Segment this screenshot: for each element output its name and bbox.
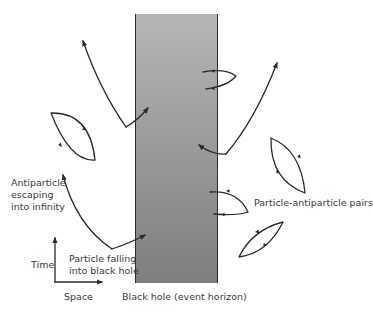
pair-loop-right-upper [271,138,305,193]
label-particle-line1: Particle falling [69,253,136,264]
label-antiparticle-line1: Antiparticle [11,177,66,188]
label-axis-time: Time [31,259,54,270]
label-antiparticle-line3: into infinity [11,201,65,212]
label-axis-space: Space [64,291,93,302]
pair-escape-lower-left [63,175,145,249]
label-particle-line2: into black hole [69,265,139,276]
label-antiparticle-line2: escaping [11,189,54,200]
label-pairs: Particle-antiparticle pairs [254,197,373,208]
black-hole [135,14,218,283]
pair-loop-left [51,113,95,160]
pair-loop-right-lower [239,222,283,257]
label-black-hole: Black hole (event horizon) [122,291,247,302]
